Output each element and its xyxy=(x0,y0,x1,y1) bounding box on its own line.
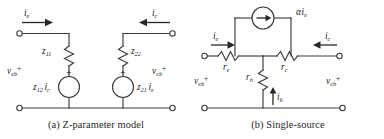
label-rc: rc xyxy=(281,62,288,73)
label-veb-polarity: + xyxy=(204,74,208,83)
terminal-bottom-right xyxy=(340,105,345,110)
terminal-bottom-left xyxy=(17,105,22,110)
label-vcb: vcb+ xyxy=(152,64,166,77)
current-arrow-ic xyxy=(313,41,337,48)
label-ie: ie xyxy=(213,31,219,42)
label-veb: veb+ xyxy=(7,64,21,77)
label-ie-subscript: e xyxy=(27,12,30,19)
label-vcb-polarity: + xyxy=(336,74,340,83)
label-rb-subscript: b xyxy=(250,76,253,83)
label-z12-subscript: 12 xyxy=(37,86,43,93)
label-ie-subscript: e xyxy=(216,35,219,42)
label-re-subscript: e xyxy=(227,66,230,73)
label-z22-subscript: 22 xyxy=(135,50,141,57)
caption-panel-a: (a) Z-parameter model xyxy=(0,119,192,130)
label-z21-subscript: 21 xyxy=(141,86,147,93)
label-z21-ie: z21ie xyxy=(136,82,154,93)
label-rb: rb xyxy=(246,72,253,83)
terminal-top-left xyxy=(202,53,207,58)
label-z11: z11 xyxy=(41,46,51,57)
label-re: re xyxy=(223,62,230,73)
figure-two-transistor-models: ie ic z11 + z12ic z22 xyxy=(0,0,384,139)
label-veb: veb+ xyxy=(194,74,208,87)
circuit-z-parameter-model: ie ic z11 + z12ic z22 xyxy=(0,0,192,119)
label-z11-subscript: 11 xyxy=(46,50,52,57)
label-ic: ic xyxy=(325,31,331,42)
label-rc-subscript: c xyxy=(285,66,288,73)
label-z12-ic: z12ic xyxy=(32,82,50,93)
terminal-top-right xyxy=(170,31,175,36)
circuit-single-source: αie ie ic re rc xyxy=(192,0,384,119)
label-ic-subscript: c xyxy=(155,12,158,19)
resistor-rc xyxy=(277,52,298,61)
terminal-bottom-right xyxy=(170,105,175,110)
resistor-rb xyxy=(259,70,268,90)
resistor-z11 xyxy=(65,46,74,66)
current-arrow-ie xyxy=(211,41,235,48)
label-ib: ib xyxy=(277,92,283,103)
voltage-source-z21-ie xyxy=(113,77,134,98)
label-ic-subscript: c xyxy=(328,35,331,42)
label-z21-factor-subscript: e xyxy=(151,86,154,93)
terminal-top-right xyxy=(337,53,342,58)
label-veb-polarity: + xyxy=(17,64,21,73)
panel-single-source: αie ie ic re rc xyxy=(192,0,384,139)
current-arrow-ic xyxy=(139,19,170,26)
label-ib-subscript: b xyxy=(280,96,283,103)
voltage-source-z12-ic xyxy=(59,77,80,98)
label-z12-factor-subscript: c xyxy=(47,86,50,93)
label-ic: ic xyxy=(152,8,158,19)
current-arrow-ie xyxy=(22,19,53,26)
current-arrow-ib xyxy=(270,87,277,105)
terminal-bottom-left xyxy=(202,105,207,110)
caption-panel-b: (b) Single-source xyxy=(192,119,384,130)
label-z22: z22 xyxy=(130,46,141,57)
label-alpha-factor-subscript: e xyxy=(304,11,307,18)
label-alpha-ie: αie xyxy=(296,7,307,18)
label-vcb: vcb+ xyxy=(326,74,340,87)
panel-z-parameter-model: ie ic z11 + z12ic z22 xyxy=(0,0,192,139)
terminal-top-left xyxy=(17,31,22,36)
label-ie: ie xyxy=(24,8,30,19)
label-vcb-polarity: + xyxy=(162,64,166,73)
resistor-z22 xyxy=(119,46,128,66)
